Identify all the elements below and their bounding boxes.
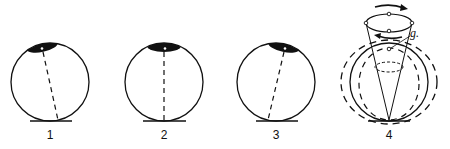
axis-line xyxy=(268,52,284,120)
pivot-dot xyxy=(41,47,44,50)
sphere-outline xyxy=(237,43,315,121)
figure-2 xyxy=(125,40,203,121)
outer-dashed-ellipse xyxy=(341,40,437,124)
dot-bottom xyxy=(387,29,391,33)
arrow-top-icon xyxy=(375,5,404,8)
dot-top xyxy=(387,12,391,16)
arrow-bottom-icon xyxy=(378,36,402,38)
figure-2-label: 2 xyxy=(161,128,168,142)
diagram-svg xyxy=(0,0,450,149)
pivot-dot xyxy=(284,47,287,50)
pivot-dot xyxy=(164,47,167,50)
figure-1 xyxy=(11,37,89,121)
figure-3 xyxy=(237,37,315,121)
axis-line xyxy=(43,52,58,120)
diagram-stage: 1 2 3 4 g. xyxy=(0,0,450,149)
small-dashed-ellipse xyxy=(375,62,403,72)
sphere-outline xyxy=(350,43,428,121)
figure-4 xyxy=(341,4,437,124)
dot-right xyxy=(410,21,414,25)
dot-g xyxy=(387,47,391,51)
arrow-bottom-head-icon xyxy=(374,33,381,39)
figure-3-label: 3 xyxy=(273,128,280,142)
figure-4-label: 4 xyxy=(386,128,393,142)
inner-dashed-ellipse xyxy=(359,48,419,120)
g-label: g. xyxy=(410,26,419,41)
figure-1-label: 1 xyxy=(47,128,54,142)
dark-cap xyxy=(25,37,59,55)
arrow-top-head-icon xyxy=(400,4,408,11)
dark-cap xyxy=(147,40,181,52)
dot-left xyxy=(364,21,368,25)
